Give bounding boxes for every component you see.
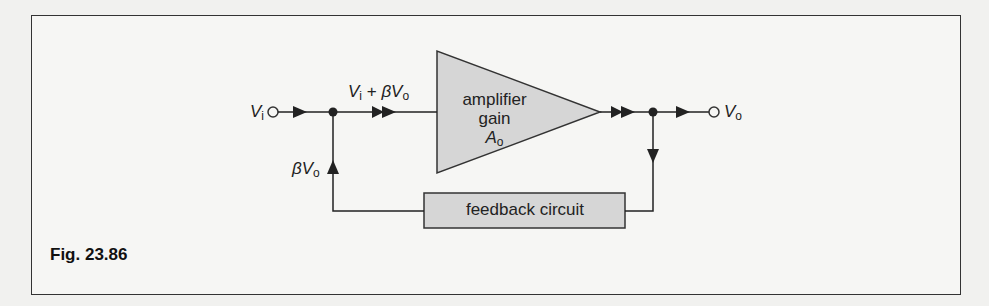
arrow-up-icon: [327, 160, 339, 174]
input-terminal: [268, 107, 278, 117]
double-arrow-icon-2: [621, 106, 635, 118]
block-diagram: [0, 0, 989, 306]
amplifier-label: amplifier gain Ao: [452, 90, 537, 152]
feedback-circuit-label: feedback circuit: [424, 200, 626, 220]
arrow-icon: [293, 106, 307, 118]
feedback-wire-return: [333, 112, 424, 211]
output-terminal: [709, 107, 719, 117]
feedback-signal-label: βVo: [292, 160, 320, 179]
arrow-icon: [676, 106, 690, 118]
sum-label: Vi + βVo: [348, 83, 409, 102]
arrow-down-icon: [647, 149, 659, 163]
figure-caption: Fig. 23.86: [50, 245, 127, 265]
double-arrow-icon-2: [382, 106, 396, 118]
input-label: Vi: [250, 103, 264, 122]
feedback-wire-out: [625, 112, 653, 211]
output-label: Vo: [724, 103, 742, 122]
